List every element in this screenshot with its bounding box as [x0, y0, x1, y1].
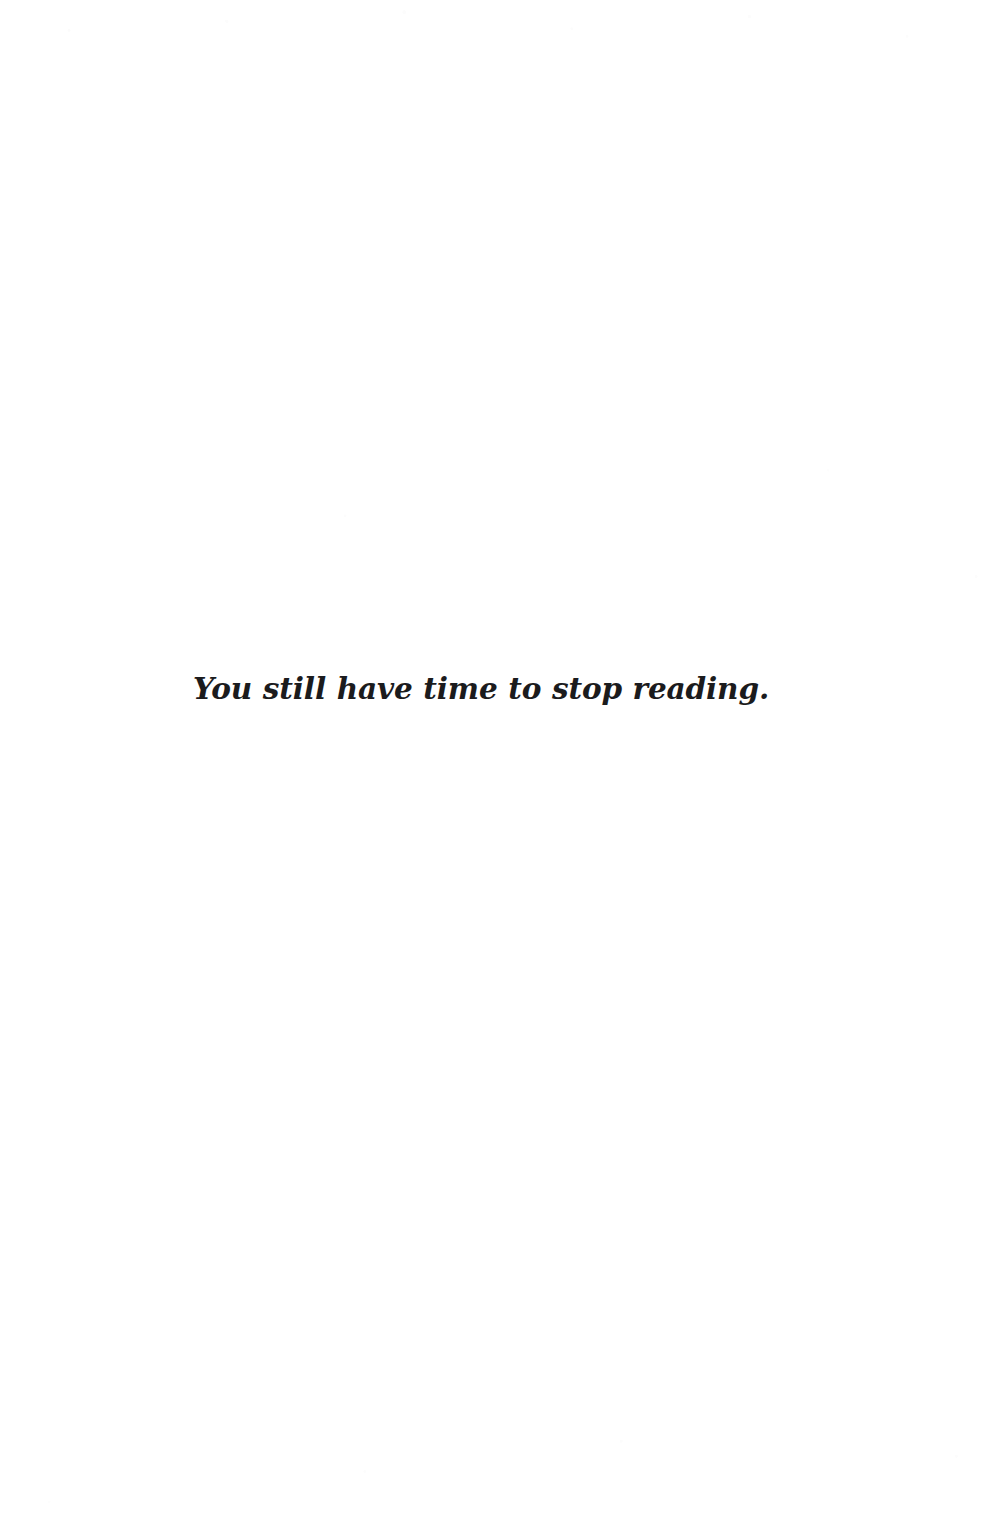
epigraph-block: You still have time to stop reading. — [0, 666, 962, 712]
paper-grain-texture — [0, 0, 986, 1517]
book-page: You still have time to stop reading. — [0, 0, 986, 1517]
epigraph-text: You still have time to stop reading. — [193, 666, 769, 712]
